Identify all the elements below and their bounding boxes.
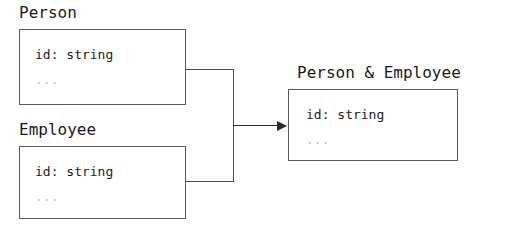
field-merged-ellipsis: ...: [306, 132, 329, 148]
node-label-employee: Employee: [19, 120, 96, 139]
entity-box-person-and-employee[interactable]: id: string ...: [288, 89, 458, 161]
field-employee-id: id: string: [35, 164, 113, 180]
merge-arrow-head: [277, 121, 287, 131]
node-label-person: Person: [19, 3, 77, 22]
field-person-id: id: string: [35, 47, 113, 63]
merge-arrow-shaft: [233, 125, 278, 126]
connector-line-person: [186, 69, 234, 70]
connector-line-employee: [186, 181, 234, 182]
field-employee-ellipsis: ...: [35, 189, 58, 205]
field-person-ellipsis: ...: [35, 72, 58, 88]
entity-box-person[interactable]: id: string ...: [19, 29, 186, 105]
diagram-canvas: Person id: string ... Employee id: strin…: [0, 0, 521, 230]
field-merged-id: id: string: [306, 107, 384, 123]
node-label-person-and-employee: Person & Employee: [297, 63, 461, 82]
entity-box-employee[interactable]: id: string ...: [19, 146, 186, 219]
